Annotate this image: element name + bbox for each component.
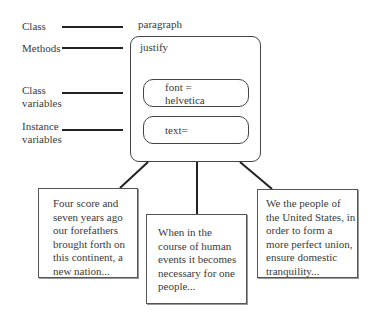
instance-3-line: more perfect union,: [266, 238, 357, 252]
instance-2-line: events it becomes: [158, 253, 246, 267]
instance-2-line: course of human: [158, 240, 246, 254]
instance-3-line: ensure domestic: [266, 251, 357, 265]
instance-2-line: people...: [158, 280, 246, 294]
connector-instance-3: [240, 162, 272, 189]
instance-3-line: We the people of: [266, 197, 357, 211]
instance-1-line: brought forth on: [53, 238, 137, 252]
instance-1-line: Four score and: [53, 197, 137, 211]
instance-1-line: this continent, a: [53, 251, 137, 265]
instance-1-line: seven years ago: [53, 211, 137, 225]
instance-box-1: Four score and seven years ago our foref…: [38, 188, 138, 278]
instance-box-2: When in the course of human events it be…: [146, 214, 247, 304]
instance-3-line: tranquility...: [266, 265, 357, 279]
instance-1-line: our forefathers: [53, 224, 137, 238]
instance-2-line: necessary for one: [158, 267, 246, 281]
instance-3-line: order to form a: [266, 224, 357, 238]
connector-instance-1: [120, 162, 148, 188]
instance-1-line: new nation...: [53, 265, 137, 279]
instance-box-3: We the people of the United States, in o…: [257, 189, 358, 278]
instance-3-line: the United States, in: [266, 211, 357, 225]
instance-2-line: When in the: [158, 226, 246, 240]
